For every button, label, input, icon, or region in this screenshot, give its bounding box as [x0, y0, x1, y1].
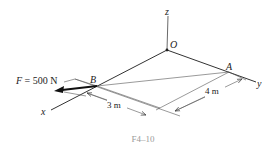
- point-b-label: B: [90, 74, 96, 85]
- force-arrowhead-icon: [54, 86, 64, 93]
- y-axis-label: y: [256, 78, 262, 89]
- dimension-line-4m-start: [175, 97, 205, 111]
- statics-diagram: z y x O 3 m 4 m A B F = 500 N F4–10: [0, 0, 272, 155]
- dimension-label-4m: 4 m: [205, 86, 219, 96]
- origin-point: [166, 49, 169, 52]
- extension-line-4m: [229, 72, 246, 80]
- figure-caption: F4–10: [131, 134, 155, 144]
- force-label: F = 500 N: [15, 75, 57, 86]
- x-axis-label: x: [40, 106, 46, 117]
- point-a-label: A: [225, 61, 233, 72]
- cable-ba: [97, 72, 229, 86]
- z-axis-label: z: [164, 6, 169, 17]
- z-axis: [167, 16, 168, 50]
- origin-label: O: [170, 39, 177, 50]
- dimension-label-3m: 3 m: [107, 100, 121, 110]
